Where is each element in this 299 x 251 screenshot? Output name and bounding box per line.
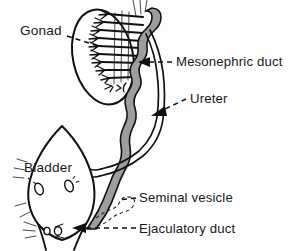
- label-ureter: Ureter: [190, 91, 228, 106]
- ureter-arrowhead: [151, 106, 167, 116]
- label-bladder: Bladder: [24, 160, 73, 175]
- label-gonad: Gonad: [20, 23, 62, 38]
- label-ejaculatory-duct: Ejaculatory duct: [139, 221, 235, 236]
- urethral-opening-right: [54, 227, 61, 235]
- bladder-structure: [13, 126, 94, 240]
- urethral-opening-left: [44, 227, 50, 234]
- ureter-leader: [163, 99, 186, 110]
- anatomical-figure: Gonad Mesonephric duct Ureter Bladder Se…: [0, 0, 299, 251]
- label-seminal-vesicle: Seminal vesicle: [139, 190, 233, 205]
- figure-canvas: Gonad Mesonephric duct Ureter Bladder Se…: [0, 0, 299, 251]
- label-mesonephric-duct: Mesonephric duct: [176, 54, 283, 69]
- seminal-vesicle-leader: [118, 198, 136, 200]
